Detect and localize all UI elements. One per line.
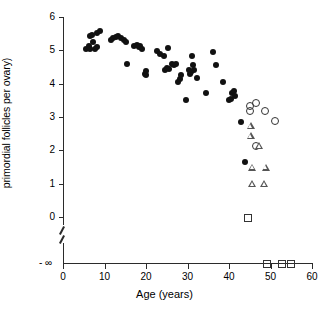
data-point-filled-circle xyxy=(232,93,238,99)
data-point-filled-circle xyxy=(161,53,167,59)
data-point-filled-circle xyxy=(194,75,200,81)
data-point-filled-circle xyxy=(213,62,219,68)
y-tick xyxy=(59,184,64,185)
x-tick xyxy=(63,264,64,269)
y-tick-label: 1 xyxy=(39,179,55,189)
y-tick xyxy=(59,50,64,51)
data-point-filled-circle xyxy=(165,45,171,51)
data-point-filled-circle xyxy=(97,28,103,34)
x-tick xyxy=(105,264,106,269)
data-point-filled-circle xyxy=(210,49,216,55)
x-tick-label: 50 xyxy=(258,272,284,282)
data-point-filled-circle xyxy=(242,159,248,165)
x-tick xyxy=(146,264,147,269)
y-tick-label: 0 xyxy=(39,212,55,222)
data-point-filled-circle xyxy=(189,53,195,59)
scatter-plot-figure: Log (number of remaining primordial foll… xyxy=(0,0,329,315)
data-point-open-triangle xyxy=(248,180,256,187)
data-point-filled-circle xyxy=(123,39,129,45)
y-tick xyxy=(59,84,64,85)
data-point-open-triangle xyxy=(255,142,263,149)
data-point-filled-circle xyxy=(238,119,244,125)
y-tick xyxy=(59,150,64,151)
data-point-filled-circle xyxy=(191,67,197,73)
data-point-open-triangle xyxy=(260,180,268,187)
data-point-filled-circle xyxy=(183,97,189,103)
data-point-open-square xyxy=(287,260,295,268)
y-tick-label-neg-infinity: - ∞ xyxy=(39,258,52,268)
y-tick-label: 4 xyxy=(39,79,55,89)
y-tick-label: 6 xyxy=(39,12,55,22)
x-tick xyxy=(312,264,313,269)
y-axis-break-mark xyxy=(59,226,65,235)
data-point-open-square xyxy=(263,260,271,268)
x-tick-label: 30 xyxy=(175,272,201,282)
data-point-filled-circle xyxy=(94,44,100,50)
x-tick-label: 20 xyxy=(133,272,159,282)
data-point-open-triangle xyxy=(262,164,270,171)
y-tick xyxy=(59,17,64,18)
data-point-open-circle xyxy=(252,99,260,107)
data-point-filled-circle xyxy=(173,61,179,67)
data-point-filled-circle xyxy=(220,79,226,85)
data-point-open-square xyxy=(278,260,286,268)
y-tick xyxy=(59,217,64,218)
y-tick-label: 3 xyxy=(39,112,55,122)
data-point-filled-circle xyxy=(124,61,130,67)
x-tick xyxy=(188,264,189,269)
data-point-open-circle xyxy=(261,107,269,115)
y-tick-label: 5 xyxy=(39,45,55,55)
x-tick xyxy=(229,264,230,269)
data-point-open-triangle xyxy=(247,132,255,139)
x-axis-label: Age (years) xyxy=(0,288,329,300)
x-tick-label: 40 xyxy=(216,272,242,282)
data-point-open-square xyxy=(244,214,252,222)
data-point-filled-circle xyxy=(178,72,184,78)
y-axis-line-lower xyxy=(63,243,64,263)
data-point-filled-circle xyxy=(139,46,145,52)
x-tick-label: 0 xyxy=(50,272,76,282)
data-point-open-triangle xyxy=(248,164,256,171)
data-point-open-triangle xyxy=(247,122,255,129)
y-axis-line xyxy=(63,17,64,225)
y-axis-break-mark xyxy=(59,235,65,244)
data-point-filled-circle xyxy=(203,90,209,96)
x-tick-label: 10 xyxy=(92,272,118,282)
data-point-open-circle xyxy=(271,117,279,125)
y-tick xyxy=(59,117,64,118)
y-axis-label: Log (number of remaining primordial foll… xyxy=(0,8,17,238)
y-tick-label: 2 xyxy=(39,145,55,155)
x-tick-label: 60 xyxy=(299,272,325,282)
